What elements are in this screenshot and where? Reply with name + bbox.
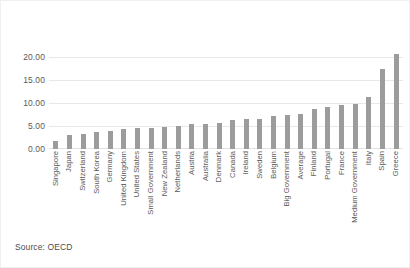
source-note: Source: OECD xyxy=(15,243,72,252)
x-axis-tick-label: Belgium xyxy=(270,151,278,179)
bar xyxy=(81,134,86,149)
x-axis-tick-label: Greece xyxy=(392,151,400,176)
x-axis-tick: South Korea xyxy=(90,151,104,229)
x-axis-tick: Greece xyxy=(389,151,403,229)
bar-slot xyxy=(117,57,131,149)
y-axis-tick-label: 10.00 xyxy=(23,99,45,108)
bar-slot xyxy=(131,57,145,149)
bar-slot xyxy=(348,57,362,149)
x-axis-tick: Ireland xyxy=(240,151,254,229)
bar-slot xyxy=(49,57,63,149)
bar-slot xyxy=(171,57,185,149)
x-axis-tick: United States xyxy=(131,151,145,229)
x-axis-tick-label: New Zealand xyxy=(161,151,169,196)
x-axis-tick-label: Japan xyxy=(66,151,74,172)
x-axis-tick: Spain xyxy=(376,151,390,229)
bar xyxy=(339,105,344,149)
x-axis-tick-label: Switzerland xyxy=(79,151,87,191)
bar-slot xyxy=(362,57,376,149)
bar xyxy=(230,120,235,149)
x-axis-tick: Netherlands xyxy=(171,151,185,229)
x-axis-tick-label: United States xyxy=(134,151,142,197)
y-axis-tick-label: 0.00 xyxy=(28,145,45,154)
x-axis-tick-label: Portugal xyxy=(324,151,332,180)
x-axis-tick-label: Germany xyxy=(106,151,114,183)
bar-slot xyxy=(376,57,390,149)
bar xyxy=(217,123,222,149)
x-axis-tick-label: Netherlands xyxy=(174,151,182,193)
x-axis-tick-label: Denmark xyxy=(215,151,223,182)
x-axis-tick: Canada xyxy=(226,151,240,229)
x-axis-tick: Medium Government xyxy=(348,151,362,229)
bar-slot xyxy=(267,57,281,149)
x-axis-tick: Sweden xyxy=(253,151,267,229)
x-axis-tick: Japan xyxy=(63,151,77,229)
x-axis-tick: Italy xyxy=(362,151,376,229)
bar-slot xyxy=(199,57,213,149)
x-axis-tick-label: Big Government xyxy=(283,151,291,207)
bar-slot xyxy=(76,57,90,149)
bar xyxy=(271,116,276,149)
bar-slot xyxy=(280,57,294,149)
x-axis-tick-label: Average xyxy=(297,151,305,180)
x-axis-tick: Big Government xyxy=(280,151,294,229)
bar xyxy=(135,128,140,149)
x-axis-tick-label: Australia xyxy=(202,151,210,181)
bar xyxy=(121,129,126,149)
bar-slot xyxy=(144,57,158,149)
x-axis-tick-label: Small Government xyxy=(147,151,155,215)
bar-slot xyxy=(253,57,267,149)
x-axis-tick: Portugal xyxy=(321,151,335,229)
bars-layer xyxy=(49,57,403,149)
bar-slot xyxy=(212,57,226,149)
bar xyxy=(162,127,167,149)
x-axis-tick-label: Ireland xyxy=(243,151,251,175)
x-axis-tick: Small Government xyxy=(144,151,158,229)
bar-slot xyxy=(103,57,117,149)
bar-slot xyxy=(389,57,403,149)
bar-slot xyxy=(185,57,199,149)
x-axis-tick: New Zealand xyxy=(158,151,172,229)
x-axis-tick: Singapore xyxy=(49,151,63,229)
bar xyxy=(108,131,113,149)
x-axis-tick: Denmark xyxy=(212,151,226,229)
x-axis-tick: France xyxy=(335,151,349,229)
bar xyxy=(94,132,99,149)
x-axis-tick: Finland xyxy=(308,151,322,229)
bar xyxy=(53,141,58,149)
bar xyxy=(176,126,181,149)
x-axis-tick: Belgium xyxy=(267,151,281,229)
bar-chart-figure: 0.005.0010.0015.0020.00 SingaporeJapanSw… xyxy=(0,0,410,268)
bar xyxy=(394,54,399,149)
bar xyxy=(366,97,371,149)
y-axis-tick-label: 20.00 xyxy=(23,53,45,62)
bar xyxy=(244,119,249,149)
bar xyxy=(353,104,358,149)
x-axis-tick-label: Spain xyxy=(379,151,387,171)
x-axis-tick-label: Canada xyxy=(229,151,237,178)
bar xyxy=(67,135,72,149)
bar xyxy=(285,115,290,149)
bar-slot xyxy=(240,57,254,149)
x-axis-tick-label: South Korea xyxy=(93,151,101,194)
x-axis-tick: Australia xyxy=(199,151,213,229)
bar xyxy=(189,124,194,149)
bar-slot xyxy=(335,57,349,149)
bar xyxy=(325,107,330,149)
bar-slot xyxy=(294,57,308,149)
x-axis-tick: Average xyxy=(294,151,308,229)
x-axis-tick-label: France xyxy=(338,151,346,175)
y-axis-tick-label: 15.00 xyxy=(23,76,45,85)
bar xyxy=(380,69,385,149)
x-axis-tick-label: United Kingdom xyxy=(120,151,128,206)
x-axis-tick-label: Austria xyxy=(188,151,196,175)
y-axis-tick-label: 5.00 xyxy=(28,122,45,131)
x-axis-tick-label: Finland xyxy=(311,151,319,176)
bar xyxy=(298,114,303,149)
x-axis-tick: Germany xyxy=(103,151,117,229)
bar xyxy=(203,124,208,149)
bar-slot xyxy=(90,57,104,149)
bar xyxy=(312,109,317,149)
x-axis-tick-label: Sweden xyxy=(256,151,264,179)
bar-slot xyxy=(63,57,77,149)
